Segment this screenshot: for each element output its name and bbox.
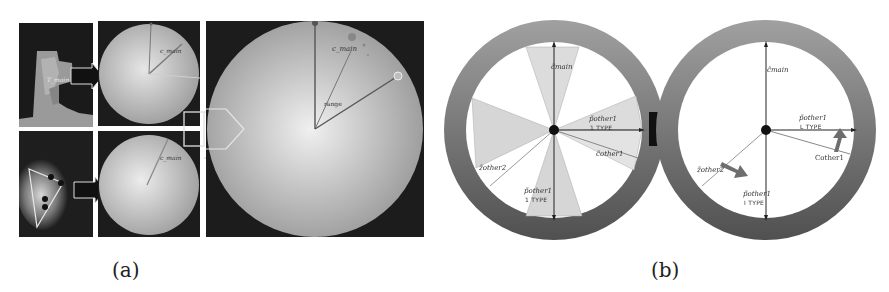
polar-zoom-view: c_main range [206, 21, 424, 237]
panel-a: T_main c_main [0, 0, 440, 292]
p-other1-bottom-label-b1: p̃other1 [524, 187, 552, 196]
caption-b: (b) [651, 258, 679, 282]
c-main-label-b1: c̃main [551, 63, 572, 72]
caption-a: (a) [112, 258, 140, 282]
sector-wheel-before [442, 18, 666, 242]
p-other1-type-b1: 1 TYPE [590, 124, 612, 131]
sector-wheel-after [654, 18, 878, 242]
c-main-label-top: c_main [160, 46, 181, 55]
p-other1-label-b1: p̃other1 [589, 115, 617, 124]
panel-b: c̃main p̃other1 1 TYPE c̃other1 z̃other2… [440, 0, 889, 292]
p-other1-label-b2: p̃other1 [799, 114, 827, 123]
t-main-label: T_main [47, 75, 69, 84]
z-other2-label-b1: z̃other2 [479, 164, 506, 173]
c-other1-label-b1: c̃other1 [596, 150, 623, 159]
c-main-label-bottom: c_main [160, 153, 181, 162]
p-other1-bottom-label-b2: p̃other1 [743, 190, 771, 199]
p-other1-bottom-type-b2: I TYPE [744, 199, 764, 206]
c-main-label-b2: c̃main [767, 66, 788, 75]
range-label: range [324, 99, 342, 108]
z-other2-label-b2: z̃other2 [697, 166, 724, 175]
p-other1-type-b2: L TYPE [800, 123, 822, 130]
c-other1-label-b2: Cother1 [815, 154, 844, 163]
p-other1-bottom-type-b1: 1 TYPE [525, 196, 547, 203]
c-main-label-zoom: c_main [332, 45, 357, 54]
polar-zoom-graphic [206, 21, 424, 237]
